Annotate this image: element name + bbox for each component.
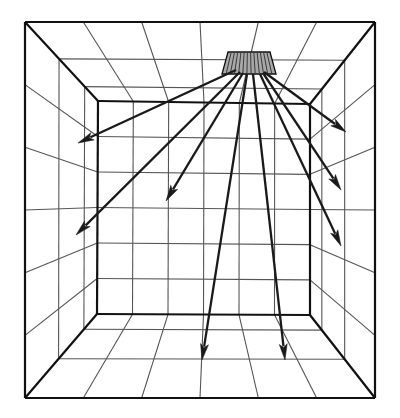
diagram-canvas: Room interior perspective with ceiling l… bbox=[0, 0, 400, 418]
ceiling-light-panel bbox=[222, 52, 276, 74]
perspective-room-illustration: Room interior perspective with ceiling l… bbox=[0, 0, 400, 418]
back-wall-bottom-edge bbox=[97, 314, 310, 315]
right-wall-receding-gridline bbox=[310, 210, 375, 211]
